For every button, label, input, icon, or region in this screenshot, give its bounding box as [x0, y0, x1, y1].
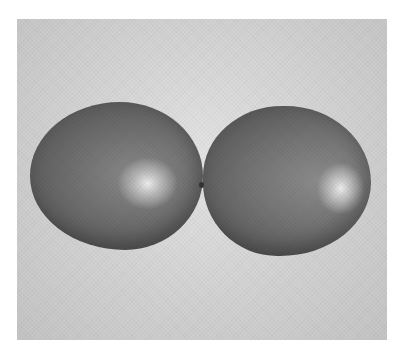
balloon-knot [199, 182, 204, 188]
left-balloon [30, 102, 203, 250]
right-balloon [203, 106, 371, 256]
photo-frame [17, 19, 387, 340]
